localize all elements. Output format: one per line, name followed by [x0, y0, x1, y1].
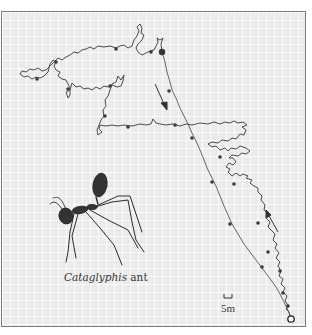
time-mark-dot: [260, 265, 264, 269]
caption-genus: Cataglyphis: [64, 271, 127, 283]
time-mark-dot: [173, 123, 177, 127]
time-mark-dot: [54, 60, 58, 64]
nest-marker: [288, 316, 294, 322]
scale-label: 5m: [221, 302, 235, 314]
time-mark-dot: [149, 50, 153, 54]
ant-thorax: [71, 205, 88, 215]
time-mark-dot: [114, 47, 118, 51]
ant-gaster: [91, 172, 109, 198]
time-mark-dot: [167, 89, 171, 93]
ant-petiole: [87, 204, 97, 209]
outbound-arrowhead-icon: [161, 102, 167, 110]
time-mark-dot: [108, 84, 112, 88]
time-mark-dot: [210, 180, 214, 184]
cataglyphis-ant-illustration: [50, 172, 144, 265]
time-marks: [35, 47, 290, 308]
homebound-arrowhead-icon: [266, 210, 271, 218]
time-mark-dot: [228, 222, 232, 226]
time-mark-dot: [232, 182, 236, 186]
caption-suffix: ant: [127, 271, 148, 283]
time-mark-dot: [266, 250, 270, 254]
time-mark-dot: [218, 155, 222, 159]
time-mark-dot: [281, 291, 285, 295]
time-mark-dot: [190, 136, 194, 140]
time-mark-dot: [286, 304, 290, 308]
ant-caption: Cataglyphis ant: [64, 271, 148, 283]
scale-bar: [224, 294, 232, 298]
outbound-path-lower: [20, 24, 291, 318]
time-mark-dot: [103, 114, 107, 118]
time-mark-dot: [66, 87, 70, 91]
foraging-path-diagram: [0, 0, 312, 335]
turning-point-marker: [159, 49, 165, 55]
ant-leg: [86, 212, 122, 265]
time-mark-dot: [35, 77, 39, 81]
time-mark-dot: [278, 269, 282, 273]
time-mark-dot: [256, 221, 260, 225]
time-mark-dot: [126, 125, 130, 129]
ant-waist: [96, 197, 98, 204]
homebound-path: [162, 52, 291, 318]
